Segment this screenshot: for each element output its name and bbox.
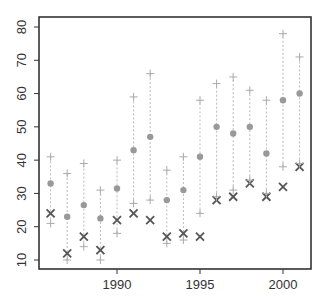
plus-marker xyxy=(96,256,104,264)
plus-marker xyxy=(146,70,154,78)
x-tick-label: 1990 xyxy=(103,277,132,292)
plus-marker xyxy=(196,96,204,104)
dot-marker xyxy=(180,187,186,193)
plus-marker xyxy=(262,96,270,104)
plus-marker xyxy=(246,86,254,94)
y-tick-label: 70 xyxy=(14,53,29,67)
plus-marker xyxy=(296,53,304,61)
dot-marker xyxy=(280,97,286,103)
dot-marker xyxy=(230,130,236,136)
x-tick-label: 2000 xyxy=(269,277,298,292)
y-tick-label: 30 xyxy=(14,186,29,200)
y-tick-label: 80 xyxy=(14,20,29,34)
y-tick-label: 60 xyxy=(14,86,29,100)
plus-marker xyxy=(229,73,237,81)
x-marker xyxy=(146,216,154,224)
plus-marker xyxy=(113,156,121,164)
plus-marker xyxy=(213,193,221,201)
plus-marker xyxy=(296,159,304,167)
dot-marker xyxy=(197,154,203,160)
plus-marker xyxy=(47,219,55,227)
x-axis: 199019952000 xyxy=(103,269,298,292)
dot-marker xyxy=(247,124,253,130)
dot-marker xyxy=(147,134,153,140)
plus-marker xyxy=(47,153,55,161)
plus-marker xyxy=(63,169,71,177)
plot-frame xyxy=(39,17,311,269)
y-tick-label: 40 xyxy=(14,153,29,167)
x-marker xyxy=(196,233,204,241)
plus-marker xyxy=(279,163,287,171)
plus-marker xyxy=(80,159,88,167)
data-markers xyxy=(47,30,304,264)
plus-marker xyxy=(246,176,254,184)
y-tick-label: 20 xyxy=(14,219,29,233)
y-tick-label: 10 xyxy=(14,253,29,267)
plus-marker xyxy=(146,196,154,204)
scatter-chart: 1020304050607080 199019952000 xyxy=(0,0,326,305)
plus-marker xyxy=(130,93,138,101)
dot-marker xyxy=(114,185,120,191)
plus-marker xyxy=(80,243,88,251)
plus-marker xyxy=(96,186,104,194)
plus-marker xyxy=(163,166,171,174)
dot-marker xyxy=(97,215,103,221)
y-axis: 1020304050607080 xyxy=(14,20,39,267)
plus-marker xyxy=(113,229,121,237)
dot-marker xyxy=(47,180,53,186)
dot-marker xyxy=(164,197,170,203)
x-marker xyxy=(130,209,138,217)
plus-marker xyxy=(130,199,138,207)
x-marker xyxy=(279,183,287,191)
dot-marker xyxy=(64,214,70,220)
x-tick-label: 1995 xyxy=(186,277,215,292)
plus-marker xyxy=(213,80,221,88)
dot-marker xyxy=(263,150,269,156)
plus-marker xyxy=(196,209,204,217)
plus-marker xyxy=(179,153,187,161)
dot-marker xyxy=(81,202,87,208)
plus-marker xyxy=(262,189,270,197)
plus-marker xyxy=(279,30,287,38)
dot-marker xyxy=(296,90,302,96)
dot-marker xyxy=(130,147,136,153)
interval-lines xyxy=(51,34,300,260)
y-tick-label: 50 xyxy=(14,120,29,134)
dot-marker xyxy=(213,124,219,130)
